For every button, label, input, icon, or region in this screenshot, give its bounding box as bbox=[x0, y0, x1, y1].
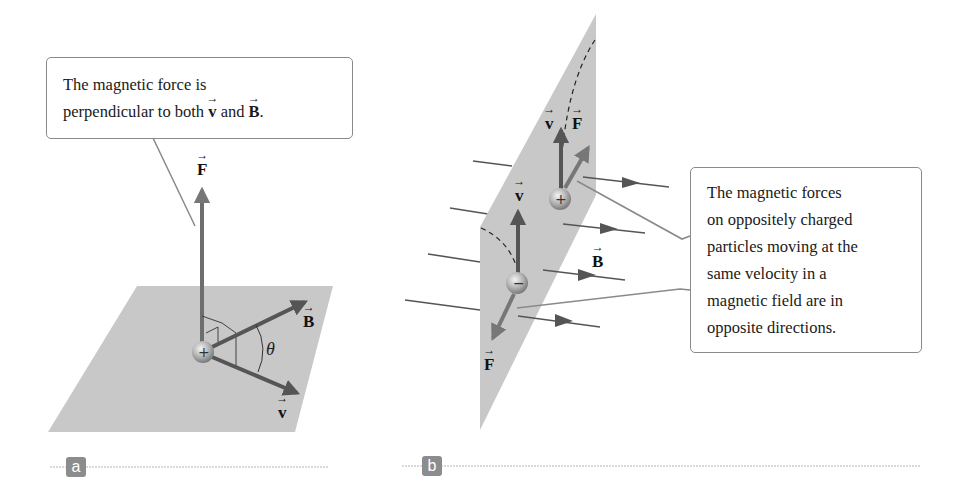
callout-b-line: particles moving at the bbox=[707, 233, 921, 260]
label-B-b: B bbox=[592, 252, 603, 272]
panel-a bbox=[48, 138, 333, 467]
label-theta: θ bbox=[266, 339, 275, 360]
callout-b-line: on oppositely charged bbox=[707, 206, 921, 233]
callout-b-line: opposite directions. bbox=[707, 314, 921, 341]
label-v-a: v bbox=[278, 403, 287, 423]
charge-sign-minus-b: − bbox=[513, 276, 525, 290]
callout-a-line2: perpendicular to both v and B. bbox=[63, 98, 352, 125]
callout-b: The magnetic forces on oppositely charge… bbox=[690, 167, 922, 353]
callout-a: The magnetic force is perpendicular to b… bbox=[46, 57, 353, 139]
field-line bbox=[428, 254, 480, 262]
label-F-bottom: F bbox=[484, 355, 494, 375]
panel-tag-a: a bbox=[66, 457, 86, 477]
callout-b-line: The magnetic forces bbox=[707, 179, 921, 206]
vector-v-symbol: v bbox=[208, 98, 216, 125]
callout-a-pointer bbox=[143, 138, 195, 226]
field-line bbox=[450, 208, 488, 214]
callout-b-pointer-top bbox=[577, 181, 690, 239]
label-v-bottom: v bbox=[515, 186, 524, 206]
callout-b-line: same velocity in a bbox=[707, 260, 921, 287]
vector-B-symbol: B bbox=[249, 98, 260, 125]
charge-sign-plus-b: + bbox=[555, 192, 567, 206]
plane-b bbox=[480, 14, 596, 430]
panel-tag-b: b bbox=[422, 456, 442, 476]
label-F-a: F bbox=[197, 160, 207, 180]
label-F-top: F bbox=[572, 114, 582, 134]
field-line bbox=[473, 161, 512, 166]
callout-b-line: magnetic field are in bbox=[707, 287, 921, 314]
charge-sign-plus-a: + bbox=[198, 345, 210, 359]
label-B-a: B bbox=[303, 312, 314, 332]
label-v-top: v bbox=[545, 114, 554, 134]
field-line bbox=[405, 300, 480, 310]
